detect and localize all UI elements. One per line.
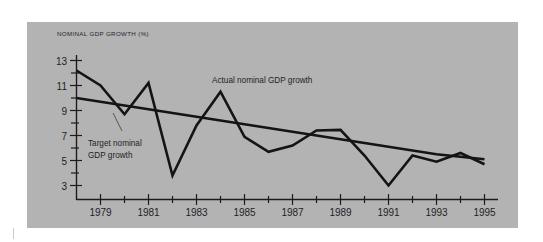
x-tick-label: 1989 [329,207,352,218]
y-tick-label: 13 [56,56,68,67]
x-tick-label: 1979 [89,207,112,218]
x-tick-label: 1985 [233,207,256,218]
figure-container: NOMINAL GDP GROWTH (%) 13 11 9 7 [0,0,543,242]
series-line-target-nominal-gdp-growth [77,98,485,159]
y-tick-label: 11 [57,81,68,92]
series-line-actual-nominal-gdp-growth [77,71,485,186]
y-tick-label: 3 [61,181,67,192]
x-tick-label: 1983 [185,207,208,218]
x-tick-label: 1991 [377,207,400,218]
x-tick-label: 1981 [137,207,160,218]
y-axis-tick-labels: 13 11 9 7 5 3 [56,56,68,192]
annotation-target-series-label-line1: Target nominal [88,139,142,148]
y-tick-label: 7 [61,131,67,142]
y-axis-title: NOMINAL GDP GROWTH (%) [57,30,149,37]
x-axis-tick-labels: 1979 1981 1983 1985 1987 1989 1991 1993 … [89,207,496,218]
x-tick-label: 1995 [473,207,496,218]
target-annotation-leader-line [113,113,122,131]
y-tick-label: 5 [61,156,67,167]
gdp-growth-line-chart: NOMINAL GDP GROWTH (%) 13 11 9 7 [0,0,543,242]
y-axis-minor-ticks [71,73,79,173]
annotation-actual-series-label: Actual nominal GDP growth [212,76,313,85]
x-tick-label: 1993 [425,207,448,218]
y-tick-label: 9 [61,106,67,117]
x-tick-label: 1987 [281,207,304,218]
annotation-target-series-label-line2: GDP growth [88,151,133,160]
